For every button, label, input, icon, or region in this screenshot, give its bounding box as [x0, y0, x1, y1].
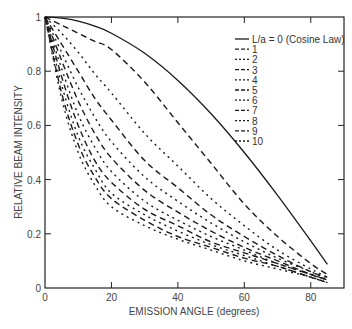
y-tick-label: 0.6 [27, 120, 41, 131]
legend-item-label: L/a = 0 (Cosine Law) [252, 34, 345, 45]
curve-la-4 [45, 17, 327, 280]
y-tick-label: 0 [35, 283, 41, 294]
y-tick-label: 0.4 [27, 175, 41, 186]
x-tick-label: 80 [305, 292, 317, 303]
curve-la-La [45, 17, 327, 264]
y-axis-ticks: 00.20.40.60.81 [27, 12, 344, 294]
y-tick-label: 0.2 [27, 229, 41, 240]
x-tick-label: 60 [239, 292, 251, 303]
curve-la-5 [45, 17, 327, 280]
curves [45, 17, 327, 283]
legend-item-label: 10 [252, 136, 264, 147]
y-tick-label: 0.8 [27, 66, 41, 77]
curve-la-6 [45, 17, 327, 280]
curve-la-2 [45, 17, 327, 277]
x-tick-label: 0 [42, 292, 48, 303]
curve-la-7 [45, 17, 327, 280]
legend: L/a = 0 (Cosine Law)12345678910 [235, 34, 345, 147]
beam-intensity-chart: 020406080 00.20.40.60.81 L/a = 0 (Cosine… [0, 0, 352, 329]
y-axis-label: RELATIVE BEAM INTENSITY [13, 85, 24, 219]
curve-la-3 [45, 17, 327, 277]
x-tick-label: 20 [106, 292, 118, 303]
x-tick-label: 40 [172, 292, 184, 303]
y-tick-label: 1 [35, 12, 41, 23]
x-axis-label: EMISSION ANGLE (degrees) [129, 306, 260, 317]
